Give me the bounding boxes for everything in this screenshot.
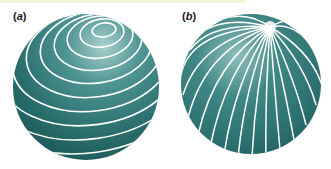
- sphere-b: [181, 14, 322, 158]
- spheres-diagram: [0, 0, 331, 169]
